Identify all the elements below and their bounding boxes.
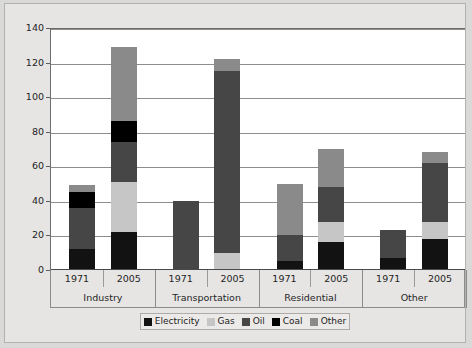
bar-segment-other [111, 47, 137, 121]
bar-segment-electricity [422, 239, 448, 270]
bars-layer [51, 29, 465, 270]
bar-industry-1971[interactable] [69, 185, 95, 270]
legend-label: Gas [218, 317, 235, 326]
legend-label: Oil [253, 317, 265, 326]
axis-year-separator [207, 270, 208, 287]
axis-group-industry: Industry [51, 287, 155, 307]
legend-swatch-gas-icon [207, 318, 215, 326]
axis-year-residential-2005: 2005 [310, 270, 362, 287]
bar-segment-oil [69, 208, 95, 249]
axis-group-residential: Residential [259, 287, 363, 307]
bar-segment-other [318, 149, 344, 187]
bar-segment-gas [214, 253, 240, 270]
category-axis: 19712005Industry19712005Transportation19… [50, 270, 465, 308]
axis-year-transportation-1971: 1971 [155, 270, 207, 287]
y-tick-label-0: 0 [12, 265, 44, 275]
legend-swatch-coal-icon [272, 318, 280, 326]
bar-segment-gas [318, 222, 344, 243]
axis-year-transportation-2005: 2005 [207, 270, 259, 287]
bar-segment-electricity [69, 249, 95, 270]
bar-segment-oil [111, 142, 137, 182]
axis-year-other-1971: 1971 [362, 270, 414, 287]
bar-segment-other [277, 184, 303, 236]
legend-label: Coal [283, 317, 303, 326]
legend-label: Other [321, 317, 347, 326]
bar-segment-coal [111, 121, 137, 142]
axis-year-residential-1971: 1971 [259, 270, 311, 287]
legend-item-coal[interactable]: Coal [272, 317, 303, 326]
chart-card: 020406080100120140 19712005Industry19712… [4, 3, 466, 343]
bar-residential-2005[interactable] [318, 149, 344, 270]
axis-group-other: Other [362, 287, 466, 307]
axis-year-industry-2005: 2005 [103, 270, 155, 287]
y-tick-label-60: 60 [12, 161, 44, 171]
y-tick-label-40: 40 [12, 196, 44, 206]
axis-year-separator [310, 270, 311, 287]
y-tick-label-100: 100 [12, 92, 44, 102]
axis-group-transportation: Transportation [155, 287, 259, 307]
bar-segment-gas [422, 222, 448, 239]
legend-item-oil[interactable]: Oil [242, 317, 265, 326]
bar-segment-gas [111, 182, 137, 232]
y-tick-label-140: 140 [12, 23, 44, 33]
bar-segment-other [214, 59, 240, 71]
legend-swatch-other-icon [310, 318, 318, 326]
bar-other-1971[interactable] [380, 230, 406, 270]
axis-year-other-2005: 2005 [414, 270, 466, 287]
bar-transportation-1971[interactable] [173, 201, 199, 270]
y-tick-label-20: 20 [12, 230, 44, 240]
y-tick-label-120: 120 [12, 58, 44, 68]
legend-label: Electricity [155, 317, 200, 326]
axis-year-separator [103, 270, 104, 287]
bar-segment-oil [422, 163, 448, 222]
bar-segment-oil [380, 230, 406, 258]
legend-item-other[interactable]: Other [310, 317, 347, 326]
bar-segment-coal [69, 192, 95, 208]
legend-item-electricity[interactable]: Electricity [144, 317, 200, 326]
axis-year-separator [414, 270, 415, 287]
bar-segment-electricity [111, 232, 137, 270]
y-tick-label-80: 80 [12, 127, 44, 137]
legend-swatch-oil-icon [242, 318, 250, 326]
bar-segment-oil [318, 187, 344, 222]
bar-other-2005[interactable] [422, 152, 448, 270]
legend-item-gas[interactable]: Gas [207, 317, 235, 326]
bar-segment-other [422, 152, 448, 162]
chart-legend: ElectricityGasOilCoalOther [140, 313, 350, 330]
axis-group-separator [466, 270, 467, 308]
axis-year-industry-1971: 1971 [51, 270, 103, 287]
bar-segment-electricity [318, 242, 344, 270]
bar-residential-1971[interactable] [277, 184, 303, 270]
chart-screenshot: 020406080100120140 19712005Industry19712… [0, 0, 472, 348]
bar-transportation-2005[interactable] [214, 59, 240, 270]
bar-industry-2005[interactable] [111, 47, 137, 270]
bar-segment-oil [214, 71, 240, 253]
plot-area [50, 28, 465, 270]
bar-segment-oil [277, 235, 303, 261]
bar-segment-oil [173, 201, 199, 270]
legend-swatch-electricity-icon [144, 318, 152, 326]
bar-segment-other [69, 185, 95, 192]
